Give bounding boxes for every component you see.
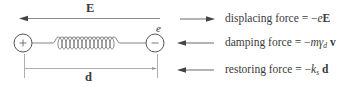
restoring-force-arrow-icon — [177, 67, 214, 72]
field-arrow — [19, 16, 160, 21]
spring-icon — [32, 37, 146, 49]
damping-force-arrow-icon — [177, 40, 214, 45]
damping-force-label: damping force = −mγd v — [225, 36, 336, 50]
separation-label: d — [85, 70, 92, 85]
restoring-force-label: restoring force = −ks d — [225, 63, 328, 77]
displacing-force-label: displacing force = −eE — [225, 12, 330, 24]
field-label: E — [86, 1, 94, 16]
displacing-force-arrow-icon — [180, 16, 215, 21]
positive-charge-icon — [14, 34, 32, 52]
negative-charge-icon — [146, 34, 164, 52]
electron-label: e — [156, 22, 161, 34]
